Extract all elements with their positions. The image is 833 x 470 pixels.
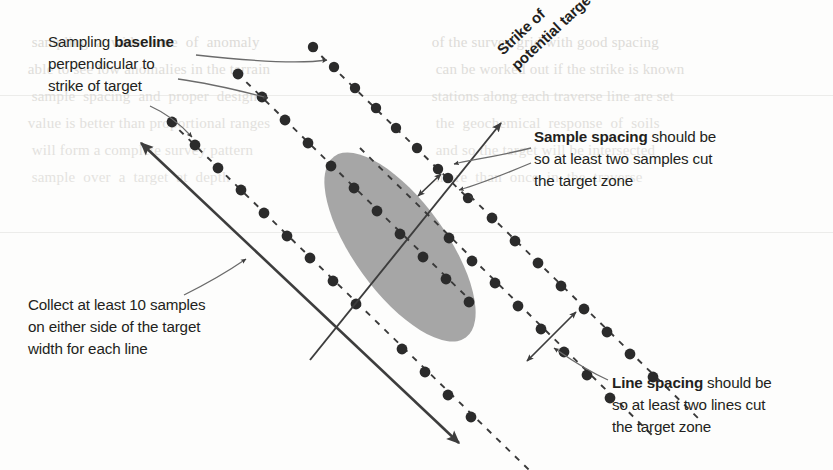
annotation-sampling-baseline: Sampling baseline perpendicular to strik…	[48, 31, 263, 97]
annotation-sample-spacing: Sample spacing should be so at least two…	[534, 126, 804, 192]
annotation-collect-samples: Collect at least 10 samples on either si…	[28, 294, 268, 360]
annotation-line-spacing: Line spacing should be so at least two l…	[612, 372, 833, 438]
sample-spacing-arrow	[418, 174, 441, 196]
